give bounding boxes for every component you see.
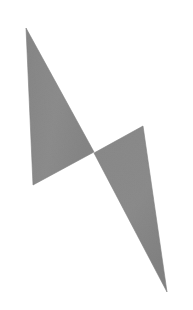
figure-canvas [0, 0, 193, 310]
shapes-svg [0, 0, 193, 310]
